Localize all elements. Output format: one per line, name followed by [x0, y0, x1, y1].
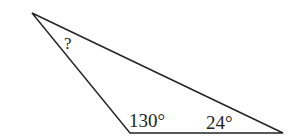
- obtuse-angle-label: 130°: [129, 110, 165, 131]
- unknown-angle-label: ?: [64, 34, 72, 53]
- triangle-diagram: ? 130° 24°: [0, 0, 297, 139]
- acute-angle-label: 24°: [206, 112, 233, 133]
